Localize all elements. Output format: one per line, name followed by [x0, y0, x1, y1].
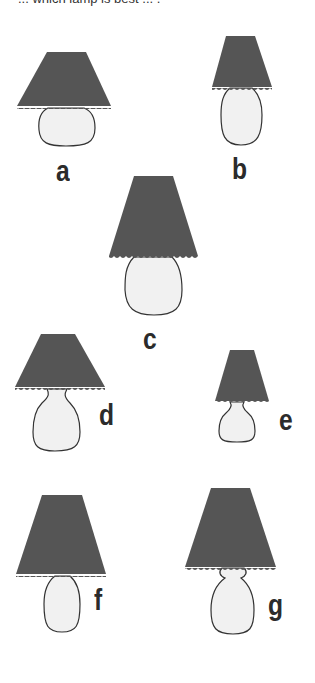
lamp-e-shade: [215, 350, 269, 401]
lamp-d-shade: [15, 334, 105, 387]
lamp-d-base: [33, 389, 80, 451]
lamp-c-base: [125, 257, 182, 315]
lamp-c: [109, 176, 198, 315]
lamp-d: [15, 334, 105, 451]
label-c: c: [143, 324, 157, 354]
lamp-e: [215, 350, 269, 442]
lamp-g-shade: [185, 488, 276, 567]
lamp-f: [16, 495, 106, 632]
lamp-a: [17, 52, 111, 146]
lamp-g-base: [211, 568, 254, 634]
lamp-b-shade: [212, 36, 272, 87]
label-g: g: [268, 590, 283, 620]
lamp-c-shade: [109, 176, 198, 256]
lamp-g: [185, 488, 276, 634]
lamp-a-shade: [17, 52, 111, 106]
label-d: d: [99, 400, 114, 430]
lamp-e-base: [219, 402, 255, 442]
lamp-figure: [0, 0, 315, 683]
lamp-f-shade: [16, 495, 106, 574]
label-f: f: [94, 585, 102, 615]
lamp-b-base: [221, 88, 262, 145]
label-a: a: [56, 156, 70, 186]
lamp-b: [212, 36, 272, 145]
label-e: e: [279, 405, 293, 435]
lamp-a-base: [39, 108, 95, 146]
lamp-f-base: [44, 576, 80, 632]
label-b: b: [232, 154, 247, 184]
